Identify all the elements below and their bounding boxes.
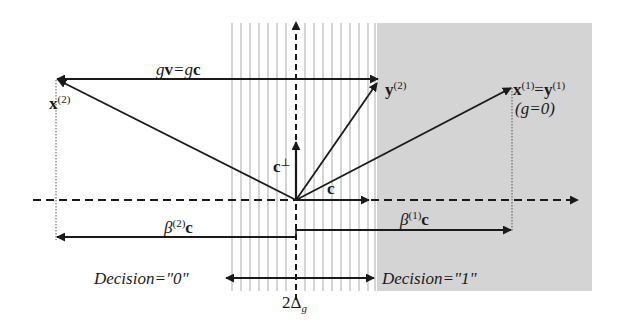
v-symbol: v	[165, 60, 174, 79]
y2-base: y	[385, 80, 394, 99]
y1-sup: (1)	[552, 79, 565, 91]
two-delta: 2Δ	[282, 293, 301, 312]
y2-sup: (2)	[394, 79, 407, 91]
y2-vector	[296, 83, 377, 200]
x1-sup: (1)	[522, 79, 535, 91]
beta1-sup: (1)	[408, 209, 421, 221]
delta-sub-g: g	[301, 302, 307, 314]
x1-equals-y1-label: x(1)=y(1)	[513, 80, 565, 98]
g-equals-zero-label: (g=0)	[515, 100, 555, 117]
c-perp-base: c	[273, 157, 281, 176]
x2-label: x(2)	[49, 94, 70, 112]
decision-one-label: Decision="1"	[382, 270, 477, 287]
decision-zero-label: Decision="0"	[94, 270, 189, 287]
beta2-c: c	[185, 218, 193, 237]
equals-sign: =	[534, 80, 544, 99]
x2-vector	[58, 80, 296, 200]
x2-sup: (2)	[58, 93, 71, 105]
c-label: c	[327, 180, 335, 197]
beta2c-label: β(2)c	[164, 218, 193, 236]
g-symbol: g	[156, 60, 165, 79]
eq-g-symbol: =g	[173, 60, 193, 79]
gv-equals-gc-label: gv=gc	[156, 61, 201, 78]
x1-base: x	[513, 80, 522, 99]
beta1c-label: β(1)c	[400, 210, 429, 228]
y2-label: y(2)	[385, 80, 406, 98]
c-perp-label: c⊥	[273, 157, 291, 175]
decision-diagram: gv=gc x(2) y(2) x(1)=y(1) (g=0) c⊥ c β(2…	[0, 0, 622, 331]
uncertainty-band-stripes	[232, 23, 375, 291]
c-symbol: c	[193, 60, 201, 79]
two-delta-g-label: 2Δg	[282, 294, 307, 314]
x2-base: x	[49, 94, 58, 113]
c-perp-sup: ⊥	[281, 156, 291, 168]
beta2-sup: (2)	[172, 217, 185, 229]
decision-one-region	[377, 23, 592, 291]
beta1-c: c	[421, 210, 429, 229]
